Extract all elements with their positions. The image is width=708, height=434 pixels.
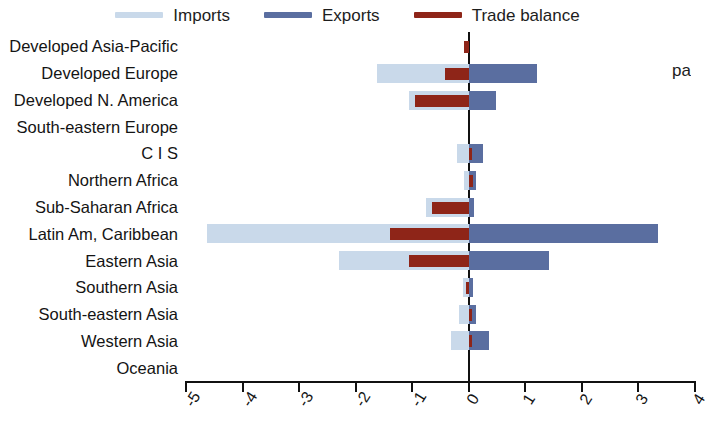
bar-row — [186, 327, 695, 354]
legend-label-balance: Trade balance — [472, 7, 580, 24]
bar-trade-balance[interactable] — [469, 148, 472, 160]
bar-row — [186, 274, 695, 301]
x-tick-label: -3 — [295, 389, 316, 410]
bar-exports[interactable] — [469, 278, 473, 297]
x-axis-line — [186, 381, 695, 383]
bar-exports[interactable] — [469, 64, 537, 83]
bar-exports[interactable] — [469, 91, 496, 110]
bar-row — [186, 194, 695, 221]
bar-imports[interactable] — [451, 331, 469, 350]
bar-trade-balance[interactable] — [464, 41, 469, 53]
category-label: South-eastern Asia — [0, 306, 178, 323]
category-label: Developed Europe — [0, 65, 178, 82]
bar-trade-balance[interactable] — [466, 282, 469, 294]
bar-trade-balance[interactable] — [432, 202, 469, 214]
bar-row — [186, 140, 695, 167]
x-tick-label: 4 — [690, 391, 708, 407]
legend-swatch-imports — [115, 12, 163, 18]
plot-area — [186, 33, 695, 381]
bar-row — [186, 113, 695, 140]
category-label: South-eastern Europe — [0, 119, 178, 136]
x-tick-label: -5 — [182, 389, 203, 410]
bar-row — [186, 220, 695, 247]
bar-imports[interactable] — [457, 144, 468, 163]
x-tick-label: -2 — [352, 389, 373, 410]
bar-exports[interactable] — [469, 251, 549, 270]
legend-item-exports[interactable]: Exports — [264, 7, 380, 24]
category-label: Developed Asia-Pacific — [0, 38, 178, 55]
x-tick-label: 2 — [577, 391, 595, 407]
category-label: Western Asia — [0, 333, 178, 350]
category-label: Developed N. America — [0, 92, 178, 109]
bar-trade-balance[interactable] — [469, 309, 472, 321]
bar-exports[interactable] — [469, 224, 658, 243]
legend-label-exports: Exports — [322, 7, 380, 24]
bar-row — [186, 167, 695, 194]
bar-row — [186, 87, 695, 114]
legend-swatch-balance — [414, 12, 462, 18]
chart-legend: ImportsExportsTrade balance — [0, 0, 695, 30]
category-axis-labels: Developed Asia-PacificDeveloped EuropeDe… — [0, 33, 178, 381]
bar-trade-balance[interactable] — [469, 175, 473, 187]
category-label: Sub-Saharan Africa — [0, 199, 178, 216]
bar-trade-balance[interactable] — [469, 335, 472, 347]
bar-trade-balance[interactable] — [409, 255, 468, 267]
bar-trade-balance[interactable] — [390, 228, 469, 240]
legend-item-balance[interactable]: Trade balance — [414, 7, 580, 24]
category-label: Southern Asia — [0, 279, 178, 296]
category-label: Eastern Asia — [0, 253, 178, 270]
bar-row — [186, 33, 695, 60]
bar-row — [186, 247, 695, 274]
bar-exports[interactable] — [469, 198, 475, 217]
x-tick-label: -4 — [239, 389, 260, 410]
category-label: Northern Africa — [0, 172, 178, 189]
x-tick-label: 3 — [634, 391, 652, 407]
bar-trade-balance[interactable] — [415, 95, 469, 107]
bar-row — [186, 60, 695, 87]
x-tick-label: 1 — [520, 391, 538, 407]
bar-row — [186, 301, 695, 328]
x-tick-label: 0 — [464, 391, 482, 407]
bar-trade-balance[interactable] — [445, 68, 469, 80]
category-label: Oceania — [0, 360, 178, 377]
legend-label-imports: Imports — [173, 7, 230, 24]
legend-item-imports[interactable]: Imports — [115, 7, 230, 24]
bar-imports[interactable] — [459, 305, 469, 324]
legend-swatch-exports — [264, 12, 312, 18]
x-tick-label: -1 — [409, 389, 430, 410]
category-label: Latin Am, Caribbean — [0, 226, 178, 243]
cropped-side-text: pa — [672, 62, 691, 79]
category-label: C I S — [0, 145, 178, 162]
bar-row — [186, 354, 695, 381]
